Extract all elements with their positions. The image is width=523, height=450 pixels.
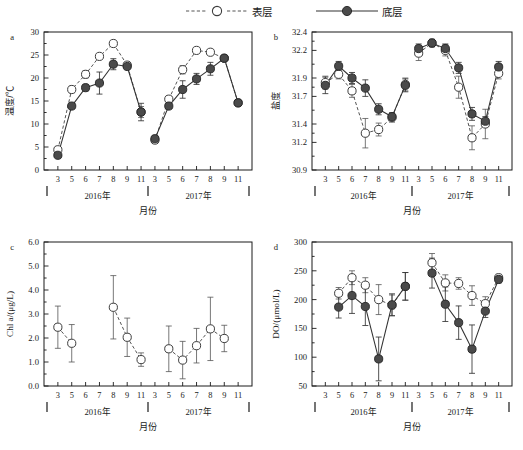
panel-d-datapoint-bottom xyxy=(361,302,369,310)
panel-b-ytick-label: 31.2 xyxy=(292,137,307,147)
panel-a-datapoint-surface xyxy=(179,66,187,74)
panel-c-xtick-label: 6 xyxy=(181,391,185,400)
panel-d-letter: d xyxy=(274,242,279,252)
panel-d-xtick-label: 8 xyxy=(470,391,474,400)
panel-a-year-label: 2016年 xyxy=(84,190,110,201)
panel-b-xtick-label: 8 xyxy=(377,175,381,184)
panel-b-xtick-label: 3 xyxy=(323,175,327,184)
panel-b-ytick-label: 32.2 xyxy=(292,45,307,55)
panel-d-datapoint-surface xyxy=(468,291,476,299)
panel-a-datapoint-bottom xyxy=(137,108,145,116)
panel-a-xtick-label: 9 xyxy=(125,175,129,184)
panel-c-ytick-label: 6.0 xyxy=(28,237,39,247)
panel-d-ytick-label: 200 xyxy=(294,295,307,305)
panel-a-year-label: 2017年 xyxy=(185,190,211,201)
panel-b-datapoint-surface xyxy=(335,70,343,78)
panel-d-datapoint-surface xyxy=(348,274,356,282)
panel-b-datapoint-bottom xyxy=(375,105,383,113)
panel-c-ytick-label: 4.0 xyxy=(28,285,39,295)
panel-a-datapoint-surface xyxy=(95,52,103,60)
panel-b-xtick-label: 3 xyxy=(417,175,421,184)
panel-b-xaxis-title: 月份 xyxy=(403,205,421,216)
panel-b-ytick-label: 32.4 xyxy=(292,27,308,37)
panel-c-xtick-label: 7 xyxy=(97,391,101,400)
panel-a-xtick-label: 9 xyxy=(222,175,226,184)
panel-c-xtick-label: 7 xyxy=(194,391,198,400)
panel-a-ytick-label: 25 xyxy=(30,50,39,60)
panel-a-letter: a xyxy=(10,32,14,42)
panel-d-dissolved-oxygen: 5010015020025030035678911356789112016年20… xyxy=(262,230,523,450)
panel-a-datapoint-surface xyxy=(68,85,76,93)
panel-a-xtick-label: 5 xyxy=(167,175,171,184)
panel-b-xtick-label: 5 xyxy=(430,175,434,184)
panel-b-datapoint-bottom xyxy=(468,110,476,118)
panel-b-datapoint-bottom xyxy=(348,74,356,82)
panel-b-xtick-label: 7 xyxy=(363,175,367,184)
panel-d-xtick-label: 9 xyxy=(483,391,487,400)
panel-b-xtick-label: 11 xyxy=(401,175,409,184)
panel-b-datapoint-surface xyxy=(468,134,476,142)
panel-d-xtick-label: 11 xyxy=(401,391,409,400)
panel-d-ytick-label: 250 xyxy=(294,266,307,276)
panel-d-datapoint-surface xyxy=(428,259,436,267)
panel-d-xtick-label: 8 xyxy=(377,391,381,400)
panel-c-xtick-label: 5 xyxy=(167,391,171,400)
panel-d-datapoint-bottom xyxy=(335,303,343,311)
panel-b-datapoint-bottom xyxy=(495,63,503,71)
panel-c-xtick-label: 5 xyxy=(70,391,74,400)
panel-d-year-label: 2017年 xyxy=(447,406,473,417)
panel-b-xtick-label: 6 xyxy=(350,175,354,184)
panel-d-plot: 5010015020025030035678911356789112016年20… xyxy=(262,230,523,450)
panel-c-plot: 0.01.02.03.04.05.06.03567891135678911201… xyxy=(0,230,262,450)
panel-d-ytick-label: 50 xyxy=(298,381,307,391)
panel-b-datapoint-bottom xyxy=(441,44,449,52)
panel-d-xtick-label: 5 xyxy=(337,391,341,400)
panel-c-year-label: 2017年 xyxy=(185,406,211,417)
panel-d-xtick-label: 6 xyxy=(350,391,354,400)
panel-c-datapoint-surface xyxy=(220,334,228,342)
panel-b-year-label: 2016年 xyxy=(350,190,376,201)
panel-a-xtick-label: 6 xyxy=(181,175,185,184)
panel-d-xtick-label: 5 xyxy=(430,391,434,400)
panel-c-year-label: 2016年 xyxy=(84,406,110,417)
panel-d-datapoint-bottom xyxy=(495,275,503,283)
panel-c-yaxis-title: Chl a/(μg/L) xyxy=(5,291,15,337)
panel-c-xtick-label: 9 xyxy=(125,391,129,400)
panel-d-ytick-label: 150 xyxy=(294,323,307,333)
panel-a-xtick-label: 11 xyxy=(234,175,242,184)
panel-a-datapoint-bottom xyxy=(68,102,76,110)
panel-a-xtick-label: 8 xyxy=(208,175,212,184)
panel-d-xtick-label: 7 xyxy=(457,391,461,400)
panel-d-xtick-label: 9 xyxy=(390,391,394,400)
panel-c-datapoint-surface xyxy=(68,339,76,347)
panel-b-xtick-label: 9 xyxy=(483,175,487,184)
panel-b-xtick-label: 8 xyxy=(470,175,474,184)
panel-d-xaxis-title: 月份 xyxy=(403,421,421,432)
panel-c-ytick-label: 2.0 xyxy=(28,333,39,343)
panel-a-datapoint-bottom xyxy=(151,135,159,143)
panel-a-ytick-label: 5 xyxy=(35,142,39,152)
panel-a-datapoint-bottom xyxy=(109,60,117,68)
panel-a-ytick-label: 10 xyxy=(30,119,39,129)
panel-a-yaxis-title: 温度/℃ xyxy=(4,86,15,116)
panel-d-datapoint-bottom xyxy=(375,355,383,363)
panel-c-ytick-label: 0.0 xyxy=(28,381,39,391)
panel-a-xtick-label: 3 xyxy=(153,175,157,184)
panel-b-datapoint-bottom xyxy=(455,64,463,72)
panel-c-datapoint-surface xyxy=(179,356,187,364)
panel-c-ytick-label: 3.0 xyxy=(28,309,39,319)
panel-c-datapoint-surface xyxy=(192,342,200,350)
panel-a-datapoint-surface xyxy=(206,48,214,56)
panel-b-datapoint-surface xyxy=(375,125,383,133)
panel-c-xtick-label: 3 xyxy=(153,391,157,400)
panel-b-datapoint-surface xyxy=(361,129,369,137)
panel-a-datapoint-bottom xyxy=(95,79,103,87)
panel-b-ytick-label: 31.4 xyxy=(292,119,308,129)
panel-b-xtick-label: 11 xyxy=(495,175,503,184)
panel-a-ytick-label: 0 xyxy=(35,165,39,175)
panel-b-datapoint-surface xyxy=(455,83,463,91)
panel-c-xtick-label: 11 xyxy=(137,391,145,400)
panel-a-datapoint-surface xyxy=(82,70,90,78)
legend-solid-filled-circle-icon xyxy=(316,4,378,18)
panel-c-xtick-label: 8 xyxy=(111,391,115,400)
